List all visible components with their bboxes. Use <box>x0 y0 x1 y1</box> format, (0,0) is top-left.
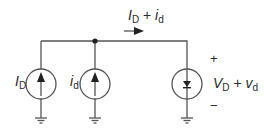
circuit-diagram: ID + id ID id + − VD + vd <box>0 0 264 131</box>
diode-icon <box>183 81 191 87</box>
ac-source-label: id <box>70 74 79 90</box>
arrow-up-icon <box>91 72 99 82</box>
diode-bar <box>183 87 191 88</box>
ground-icon <box>89 118 101 123</box>
arrow-right-icon <box>134 27 144 35</box>
ground-icon <box>35 118 47 123</box>
arrow-up-icon <box>37 72 45 82</box>
polarity-minus: − <box>210 99 218 113</box>
dc-source-label: ID <box>15 74 26 90</box>
top-current-label: ID + id <box>128 8 164 24</box>
junction-dot <box>92 38 97 43</box>
top-wire <box>41 41 187 69</box>
diode-voltage-label: VD + vd <box>213 76 258 92</box>
ground-icon <box>181 118 193 123</box>
polarity-plus: + <box>210 52 218 66</box>
